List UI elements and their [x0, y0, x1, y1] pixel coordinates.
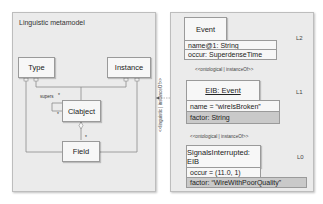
attribute-row: occur: SuperdenseTime	[184, 49, 277, 60]
class-eib-header: EIB: Event	[186, 80, 260, 101]
class-clabject: Clabject	[62, 100, 101, 122]
attribute-text: factor: String	[190, 114, 230, 121]
attribute-text: name@1: String	[188, 42, 239, 49]
linguistic-instanceof-label: <<linguistic | instanceOf>>	[158, 78, 163, 132]
attribute-text: occur = (11.0, 1)	[190, 169, 241, 176]
class-clabject-label: Clabject	[68, 107, 95, 116]
attribute-text: name = “wireIsBroken”	[190, 103, 261, 110]
class-event-header: Event	[184, 17, 227, 41]
class-field-label: Field	[73, 147, 89, 156]
supers-multiplicity-bottom: *	[57, 111, 59, 117]
class-signalsinterrupted-header: SignalsInterrupted: EIB	[186, 145, 261, 168]
supers-multiplicity-top: *	[58, 92, 60, 98]
attribute-text: occur: SuperdenseTime	[188, 51, 262, 58]
class-instance-label: Instance	[115, 63, 143, 72]
ontological-instanceof-label: <<ontological | instanceOf>>	[195, 67, 253, 72]
class-instance: Instance	[107, 57, 151, 78]
level-label-l2: L2	[296, 35, 303, 41]
attribute-row-shaded: factor: String	[186, 111, 280, 124]
class-type: Type	[18, 57, 55, 78]
attribute-row-shaded: factor: “WireWithPoorQuality”	[186, 177, 307, 188]
supers-label: supers	[40, 94, 54, 99]
class-field: Field	[62, 141, 100, 162]
class-eib-label: EIB: Event	[205, 86, 240, 95]
class-event-label: Event	[196, 25, 215, 34]
level-label-l1: L1	[296, 89, 303, 95]
field-multiplicity: *	[85, 134, 87, 140]
class-signalsinterrupted-label: SignalsInterrupted: EIB	[187, 148, 260, 166]
level-label-l0: L0	[297, 154, 304, 160]
ontological-instanceof-label: <<ontological | instanceOf>>	[190, 134, 248, 139]
attribute-text: factor: “WireWithPoorQuality”	[190, 179, 281, 186]
class-type-label: Type	[28, 63, 44, 72]
